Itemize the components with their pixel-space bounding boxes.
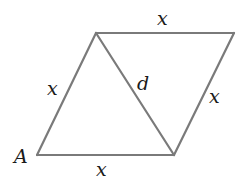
label-top-side: x	[157, 7, 168, 29]
side-right	[174, 33, 234, 155]
diagram-svg: x x d x x A	[0, 0, 241, 183]
diagonal-d	[96, 33, 174, 155]
label-right-side: x	[209, 85, 220, 107]
side-left	[37, 33, 96, 155]
rhombus-diagram: x x d x x A	[0, 0, 241, 183]
label-bottom-side: x	[96, 158, 107, 180]
label-left-side: x	[47, 77, 58, 99]
label-vertex-a: A	[12, 145, 28, 167]
label-diagonal: d	[137, 72, 149, 94]
